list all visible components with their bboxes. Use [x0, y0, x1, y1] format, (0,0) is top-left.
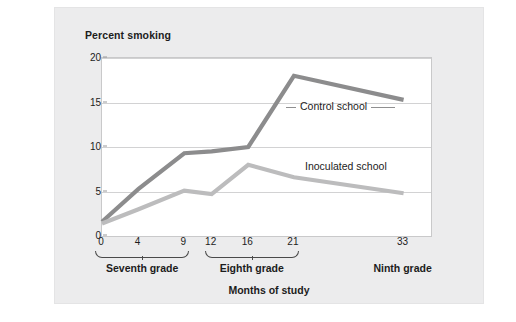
grade-bracket	[205, 251, 299, 258]
x-tick-label-12: 12	[205, 236, 216, 247]
y-tick-label-20: 20	[90, 52, 101, 63]
y-tick-mark-5	[103, 190, 107, 191]
y-tick-mark-10	[103, 146, 107, 147]
chart-title: Percent smoking	[85, 29, 171, 41]
x-tick-label-16: 16	[242, 236, 253, 247]
x-tick-label-0: 0	[98, 236, 104, 247]
x-axis: 04912162133	[101, 236, 432, 252]
grade-label: Eighth grade	[220, 262, 284, 274]
series-lines	[102, 58, 431, 236]
grade-groups: Seventh gradeEighth gradeNinth grade	[101, 251, 441, 285]
leader-line-control-right	[371, 107, 395, 108]
x-tick-label-9: 9	[180, 236, 186, 247]
figure-card: Percent smoking 05101520 04912162133 Sev…	[55, 8, 483, 303]
y-tick-label-10: 10	[90, 141, 101, 152]
series-label-control: Control school	[300, 100, 367, 112]
y-tick-label-15: 15	[90, 96, 101, 107]
x-axis-title: Months of study	[55, 284, 483, 296]
x-tick-label-33: 33	[397, 236, 408, 247]
y-tick-mark-20	[103, 57, 107, 58]
y-tick-mark-15	[103, 101, 107, 102]
series-label-inoculated: Inoculated school	[305, 160, 387, 172]
x-tick-label-21: 21	[287, 236, 298, 247]
series-line-control	[102, 76, 404, 222]
series-line-inoculated	[102, 165, 404, 224]
y-axis: 05101520	[73, 53, 107, 243]
plot-area	[101, 57, 432, 237]
x-tick-label-4: 4	[135, 236, 141, 247]
grade-bracket	[95, 251, 189, 258]
leader-line-control-left	[286, 107, 296, 108]
grade-label: Ninth grade	[373, 262, 431, 274]
grade-label: Seventh grade	[106, 262, 178, 274]
y-tick-label-5: 5	[95, 185, 101, 196]
